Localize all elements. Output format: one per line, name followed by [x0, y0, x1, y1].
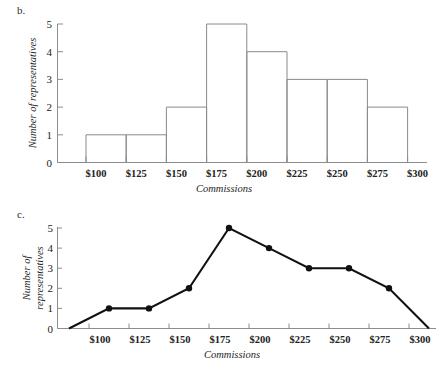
data-point-marker [146, 305, 152, 311]
data-point-marker [346, 265, 352, 271]
x-tick-label: $225 [290, 334, 311, 345]
frequency-polygon-chart: 012345 $100$125$150$175$200$225$250$275$… [0, 0, 442, 370]
x-axis-title: Commissions [204, 349, 260, 360]
polygon-x-tick-labels: $100$125$150$175$200$225$250$275$300 [90, 334, 431, 345]
data-point-marker [226, 225, 232, 231]
polygon-y-tick-labels: 012345 [48, 222, 54, 335]
y-axis-title-line2: representatives [34, 246, 45, 309]
polygon-x-ticks [89, 324, 409, 329]
statistics-figure: b. c. 012345 $100$125$150$175$200$225$25… [0, 0, 442, 370]
x-tick-label: $300 [410, 334, 431, 345]
y-tick-label: 0 [48, 323, 54, 335]
y-tick-label: 5 [48, 222, 54, 234]
y-tick-label: 2 [48, 282, 54, 294]
x-tick-label: $250 [330, 334, 351, 345]
y-tick-label: 1 [48, 302, 54, 314]
data-point-marker [106, 305, 112, 311]
polygon-axes [58, 227, 437, 329]
data-point-marker [386, 285, 392, 291]
frequency-polygon-line [69, 228, 429, 329]
data-point-marker [306, 265, 312, 271]
x-tick-label: $125 [130, 334, 151, 345]
x-tick-label: $200 [250, 334, 271, 345]
y-tick-label: 4 [48, 242, 54, 254]
y-tick-label: 3 [48, 262, 54, 274]
data-point-marker [186, 285, 192, 291]
x-tick-label: $275 [370, 334, 391, 345]
data-point-marker [266, 245, 272, 251]
y-axis-title-line1: Number of [21, 254, 32, 302]
polygon-y-ticks [58, 228, 63, 329]
x-tick-label: $175 [210, 334, 231, 345]
x-tick-label: $150 [170, 334, 191, 345]
x-tick-label: $100 [90, 334, 111, 345]
